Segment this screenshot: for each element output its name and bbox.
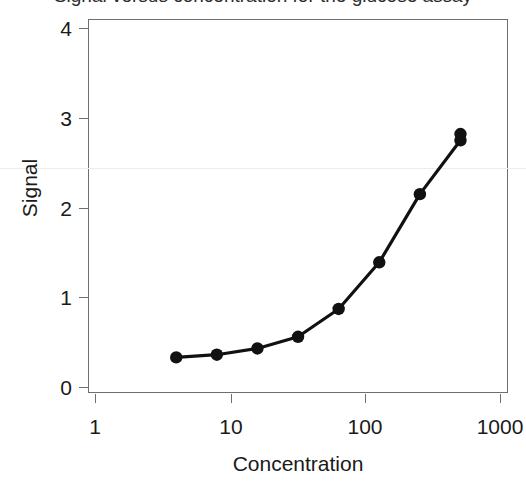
x-tick-mark-100 [365,394,366,403]
y-tick-label-1: 1 [44,287,72,308]
y-tick-mark-3 [79,118,88,119]
scan-line-artifact [0,168,526,169]
chart-title: Signal versus concentration for the gluc… [0,0,526,7]
x-tick-mark-10 [231,394,232,403]
x-tick-mark-1 [95,394,96,403]
x-tick-label-1000: 1000 [455,415,526,439]
x-tick-label-100: 100 [320,415,410,439]
y-axis-label: Signal [18,78,42,298]
chart-title-clipped: Signal versus concentration for the gluc… [0,0,526,9]
y-tick-label-2: 2 [44,198,72,219]
y-axis-label-wrap: Signal [18,78,42,298]
y-tick-mark-2 [79,208,88,209]
x-axis-label: Concentration [88,452,508,476]
y-tick-mark-4 [79,28,88,29]
y-tick-label-3: 3 [44,108,72,129]
y-tick-mark-1 [79,297,88,298]
plot-panel [88,19,508,393]
y-tick-label-0: 0 [44,377,72,398]
x-tick-mark-1000 [500,394,501,403]
y-tick-mark-0 [79,387,88,388]
x-tick-label-10: 10 [186,415,276,439]
chart-figure: Signal versus concentration for the gluc… [0,0,526,488]
x-tick-label-1: 1 [50,415,140,439]
y-tick-label-4: 4 [44,18,72,39]
